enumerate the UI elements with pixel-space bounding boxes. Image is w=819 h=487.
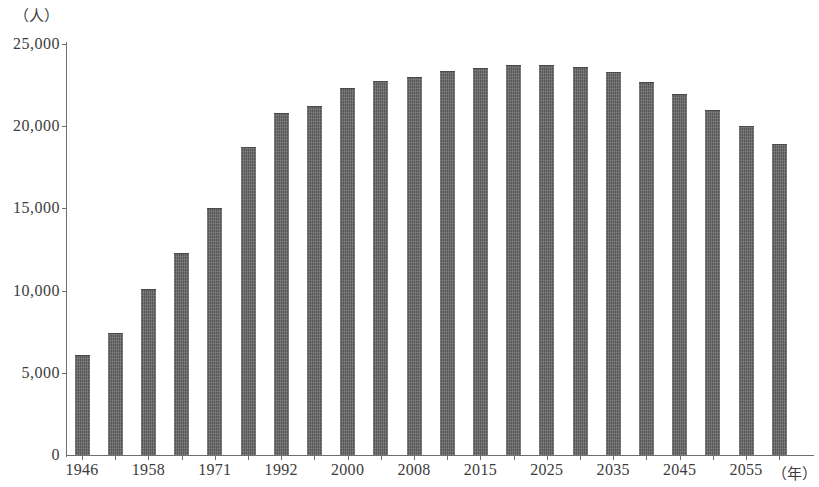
x-axis-tick-mark [281,455,282,460]
y-axis-tick-label: 10,000 [13,282,60,300]
x-axis-tick-label: 2055 [729,461,762,479]
x-axis-tick-mark [381,455,382,460]
x-axis-tick-mark [115,455,116,460]
x-axis-tick-label: 1958 [132,461,165,479]
x-axis-tick-mark [746,455,747,460]
x-axis-tick-label: 1971 [198,461,231,479]
x-axis-tick-label: 1992 [265,461,298,479]
y-axis-tick-label: 25,000 [13,35,60,53]
x-axis-tick-label: 2025 [530,461,563,479]
bar [772,144,787,455]
y-axis-tick-labels: 05,00010,00015,00020,00025,000 [0,0,60,487]
x-axis-tick-mark [547,455,548,460]
x-axis-tick-mark [248,455,249,460]
x-axis-tick-label: 2035 [597,461,630,479]
bar [573,67,588,455]
x-axis-tick-label: 2008 [397,461,430,479]
x-axis-tick-label: 2015 [464,461,497,479]
bar [373,81,388,455]
plot-area [67,44,812,455]
y-axis-tick-label: 5,000 [22,364,61,382]
bar [473,68,488,455]
bar [539,65,554,455]
bar [506,65,521,455]
x-axis-tick-mark [414,455,415,460]
x-axis-tick-mark [348,455,349,460]
bar [407,77,422,455]
bar [340,88,355,455]
x-axis-tick-label: 2000 [331,461,364,479]
x-axis-tick-mark [580,455,581,460]
x-axis-tick-mark [314,455,315,460]
x-axis-unit-label: （年） [772,462,817,483]
x-axis-tick-mark [215,455,216,460]
bar [241,147,256,455]
x-axis-tick-mark [779,455,780,460]
y-axis-tick-label: 15,000 [13,199,60,217]
x-axis-tick-label: 2045 [663,461,696,479]
y-axis-tick-mark [62,44,67,45]
x-axis-tick-mark [680,455,681,460]
y-axis-tick-mark [62,208,67,209]
bar [639,82,654,455]
x-axis-tick-mark [447,455,448,460]
bar [75,355,90,455]
x-axis-tick-mark [646,455,647,460]
bar [174,253,189,455]
x-axis-tick-mark [182,455,183,460]
x-axis-tick-label: 1946 [65,461,98,479]
y-axis-tick-label: 0 [52,446,61,464]
x-axis-tick-mark [713,455,714,460]
y-axis-tick-mark [62,291,67,292]
y-axis-tick-label: 20,000 [13,117,60,135]
x-axis-tick-mark [148,455,149,460]
bar [672,94,687,455]
x-axis-tick-mark [480,455,481,460]
bar [606,72,621,455]
bar [739,126,754,455]
bar [440,71,455,455]
x-axis-line [66,455,814,456]
bar [207,208,222,455]
bar [705,110,720,455]
y-axis-tick-mark [62,126,67,127]
x-axis-tick-mark [82,455,83,460]
bar [108,333,123,455]
bar-chart: （人） 05,00010,00015,00020,00025,000 （年） 1… [0,0,819,487]
x-axis-tick-mark [514,455,515,460]
bar [141,289,156,455]
x-axis-tick-mark [613,455,614,460]
bar [307,106,322,455]
bar [274,113,289,455]
y-axis-tick-mark [62,373,67,374]
